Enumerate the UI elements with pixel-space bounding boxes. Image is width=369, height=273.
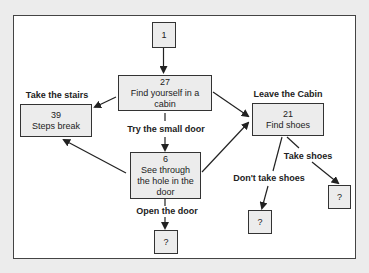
node-6: 6 See through the hole in the door [130, 152, 201, 199]
node-dont-take-shoes-result: ? [248, 210, 272, 234]
node-1: 1 [152, 22, 176, 48]
edge-21-to-take-lower [312, 162, 338, 183]
edge-21-to-notake-upper [273, 137, 282, 171]
edge-21-to-take-upper [287, 137, 299, 148]
node-21: 21 Find shoes [252, 103, 324, 136]
node-6-number: 6 [163, 154, 168, 165]
label-take-shoes: Take shoes [284, 151, 332, 161]
node-39-text: Steps break [32, 121, 80, 132]
node-1-number: 1 [161, 30, 166, 41]
edge-27-to-39 [95, 97, 116, 107]
node-27-number: 27 [160, 77, 170, 88]
edge-6-to-21 [202, 123, 248, 172]
label-open-the-door: Open the door [136, 206, 198, 216]
node-take-shoes-result-number: ? [337, 192, 342, 203]
diagram-canvas: 1 27 Find yourself in a cabin 39 Steps b… [0, 0, 369, 273]
node-open-door-result-number: ? [163, 237, 168, 248]
node-6-text: See through the hole in the door [135, 165, 196, 198]
node-27: 27 Find yourself in a cabin [118, 75, 212, 111]
node-27-text: Find yourself in a cabin [119, 88, 211, 110]
node-39: 39 Steps break [20, 104, 92, 137]
edge-6-to-39 [64, 140, 126, 173]
node-take-shoes-result: ? [328, 185, 351, 209]
node-39-number: 39 [51, 110, 61, 121]
node-open-door-result: ? [154, 230, 178, 254]
label-take-the-stairs: Take the stairs [26, 90, 88, 100]
label-leave-the-cabin: Leave the Cabin [253, 89, 322, 99]
node-21-text: Find shoes [266, 120, 310, 131]
node-dont-take-shoes-result-number: ? [257, 217, 262, 228]
edge-27-to-21 [213, 92, 248, 116]
edge-21-to-notake-lower [262, 186, 268, 208]
node-21-number: 21 [283, 109, 293, 120]
label-dont-take-shoes: Don't take shoes [233, 173, 305, 183]
label-try-the-small-door: Try the small door [127, 124, 205, 134]
